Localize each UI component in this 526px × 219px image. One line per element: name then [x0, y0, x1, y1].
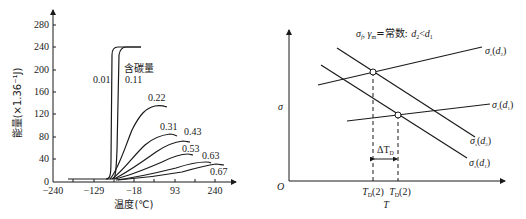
- label-sigma-s-d2: σs(d2): [470, 135, 491, 147]
- label-sigma-c-d1: σc(d1): [492, 99, 513, 111]
- curve-label-0.11: 0.11: [125, 74, 142, 85]
- TD-mark-right: TD(2): [389, 186, 411, 198]
- curve-0.22: [110, 106, 167, 179]
- y-tick-120: 120: [34, 108, 49, 119]
- y-tick-200: 200: [34, 64, 49, 75]
- x-tick-neg240: −240: [43, 185, 64, 196]
- T-axis-label: T: [383, 199, 390, 210]
- curve-label-0.22: 0.22: [148, 92, 166, 103]
- y-tick-280: 280: [34, 19, 49, 30]
- curve-label-0.53: 0.53: [182, 143, 200, 154]
- condition-text: σf, γm=常数: d2<d1: [356, 27, 433, 40]
- impact-energy-chart: 0 40 80 120 160 200 240 280 −240 −129 −1…: [11, 10, 236, 210]
- y-tick-40: 40: [39, 153, 49, 164]
- y-tick-240: 240: [34, 41, 49, 52]
- sigma-axis-label: σ: [278, 101, 284, 112]
- legend-title: 含碳量: [124, 62, 154, 74]
- curve-0.63: [116, 162, 211, 180]
- x-axis-label: 温度(℃): [114, 198, 153, 210]
- figure-canvas: 0 40 80 120 160 200 240 280 −240 −129 −1…: [0, 0, 526, 219]
- origin-label: O: [277, 181, 284, 192]
- curve-label-0.31: 0.31: [160, 121, 178, 132]
- curve-label-0.67: 0.67: [210, 166, 228, 177]
- label-sigma-s-d1: σs(d1): [469, 157, 490, 169]
- y-tick-80: 80: [39, 131, 49, 142]
- line-sigma-s-d2: [337, 48, 475, 137]
- y-tick-160: 160: [34, 86, 49, 97]
- x-tick-neg129: −129: [84, 185, 105, 196]
- line-sigma-c-d1: [347, 104, 490, 121]
- x-tick-93: 93: [170, 185, 180, 196]
- intersection-point-d1: [395, 112, 401, 118]
- label-sigma-c-d2: σc(d2): [485, 45, 506, 57]
- ductile-brittle-transition-diagram: σf, γm=常数: d2<d1 ΔTD σc(d2) σc(d1) σs(d2…: [277, 27, 513, 210]
- y-axis-label: 能量(×1.36⁻¹J): [11, 68, 23, 139]
- curve-label-0.01: 0.01: [93, 74, 111, 85]
- delta-T-label: ΔTD: [377, 144, 395, 156]
- TD-mark-left: TD(2): [362, 186, 384, 198]
- curve-label-0.63: 0.63: [202, 150, 220, 161]
- line-sigma-s-d1: [321, 65, 467, 158]
- intersection-point-d2: [370, 69, 376, 75]
- x-tick-240: 240: [208, 185, 223, 196]
- x-tick-neg18: −18: [126, 185, 142, 196]
- curve-label-0.43: 0.43: [184, 126, 202, 137]
